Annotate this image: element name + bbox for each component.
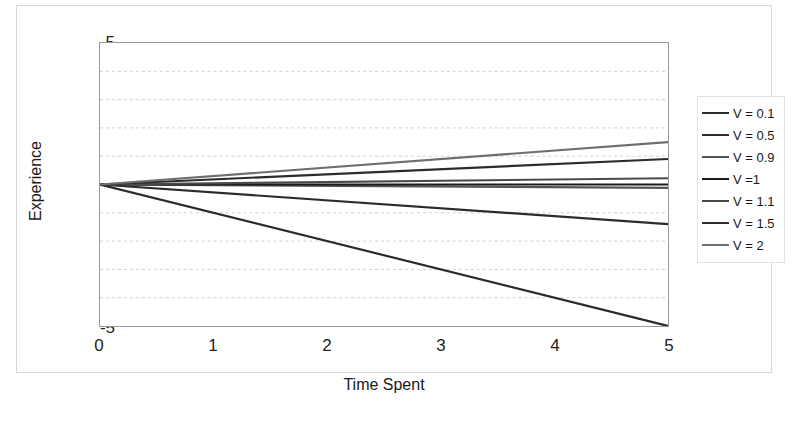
- series-line: [100, 185, 668, 327]
- plot-lines: [100, 43, 668, 326]
- legend-swatch-icon: [702, 112, 729, 114]
- legend-swatch-icon: [702, 156, 729, 158]
- x-axis-label: Time Spent: [99, 376, 669, 394]
- legend-item-label: V = 0.5: [733, 128, 775, 143]
- series-lines: [100, 142, 668, 326]
- legend-item[interactable]: V = 1.1: [702, 190, 780, 212]
- x-tick-label: 1: [193, 336, 233, 356]
- legend-item-label: V = 0.9: [733, 150, 775, 165]
- legend-item-label: V =1: [733, 172, 760, 187]
- x-tick-label: 2: [307, 336, 347, 356]
- chart-legend: V = 0.1V = 0.5V = 0.9V =1V = 1.1V = 1.5V…: [697, 96, 785, 263]
- legend-swatch-icon: [702, 134, 729, 136]
- legend-item[interactable]: V = 1.5: [702, 212, 780, 234]
- chart-title: ———— ————: [99, 0, 669, 5]
- plot-area: [99, 42, 669, 327]
- x-tick-label: 5: [649, 336, 689, 356]
- legend-item[interactable]: V =1: [702, 168, 780, 190]
- x-tick-label: 0: [79, 336, 119, 356]
- y-axis-label: Experience: [27, 101, 45, 261]
- legend-item-label: V = 0.1: [733, 106, 775, 121]
- legend-swatch-icon: [702, 222, 729, 224]
- legend-swatch-icon: [702, 244, 729, 246]
- legend-swatch-icon: [702, 200, 729, 202]
- legend-swatch-icon: [702, 178, 729, 180]
- legend-item-label: V = 1.5: [733, 216, 775, 231]
- x-tick-label: 3: [421, 336, 461, 356]
- legend-item[interactable]: V = 2: [702, 234, 780, 256]
- legend-item[interactable]: V = 0.1: [702, 102, 780, 124]
- legend-item[interactable]: V = 0.5: [702, 124, 780, 146]
- legend-item[interactable]: V = 0.9: [702, 146, 780, 168]
- x-tick-label: 4: [535, 336, 575, 356]
- legend-item-label: V = 1.1: [733, 194, 775, 209]
- legend-item-label: V = 2: [733, 238, 764, 253]
- series-line: [100, 185, 668, 225]
- chart-figure: ———— ———— Experience 543210-1-2-3-4-5 01…: [0, 0, 796, 431]
